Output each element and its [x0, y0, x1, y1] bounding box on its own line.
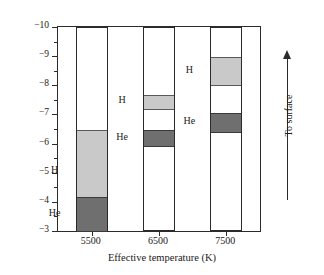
y-tick-label: −8 — [9, 79, 49, 89]
plot-area — [57, 26, 261, 232]
x-axis-title: Effective temperature (K) — [0, 252, 324, 263]
y-tick-major — [52, 114, 58, 115]
y-tick-label: −9 — [9, 50, 49, 60]
bar-5500 — [76, 27, 108, 231]
x-tick-label: 7500 — [195, 236, 255, 246]
to-surface-label: To surface — [283, 73, 294, 159]
y-tick-major — [52, 85, 58, 86]
y-tick-minor — [54, 42, 58, 43]
y-tick-major — [52, 231, 58, 232]
zone-label-he-6500: He — [108, 132, 136, 142]
zone-h-7500 — [211, 57, 241, 86]
zone-label-he-5500: He — [41, 208, 69, 218]
to-surface-annotation: To surface — [268, 48, 308, 208]
y-tick-label: −6 — [9, 138, 49, 148]
zone-label-he-7500: He — [175, 116, 203, 126]
x-tick-label: 6500 — [128, 236, 188, 246]
y-tick-minor — [54, 100, 58, 101]
zone-h-6500 — [144, 95, 174, 110]
y-tick-minor — [54, 129, 58, 130]
y-tick-label: −7 — [9, 108, 49, 118]
y-tick-label: −4 — [9, 196, 49, 206]
zone-label-h-7500: H — [175, 65, 203, 75]
zone-label-h-5500: H — [41, 165, 69, 175]
y-tick-minor — [54, 71, 58, 72]
zone-he-6500 — [144, 130, 174, 147]
y-tick-major — [52, 144, 58, 145]
bar-7500 — [210, 27, 242, 231]
y-tick-minor — [54, 158, 58, 159]
zone-he-5500 — [77, 197, 107, 232]
figure-root: Log10(1 − Mr/M*) −10−9−8−7−6−5−4−3 55006… — [0, 0, 324, 275]
y-tick-major — [52, 56, 58, 57]
zone-label-h-6500: H — [108, 95, 136, 105]
y-tick-label: −3 — [9, 225, 49, 235]
x-tick-label: 5500 — [61, 236, 121, 246]
y-tick-major — [52, 27, 58, 28]
zone-he-7500 — [211, 113, 241, 133]
y-tick-major — [52, 202, 58, 203]
y-tick-label: −10 — [9, 21, 49, 31]
y-tick-minor — [54, 187, 58, 188]
bar-6500 — [143, 27, 175, 231]
